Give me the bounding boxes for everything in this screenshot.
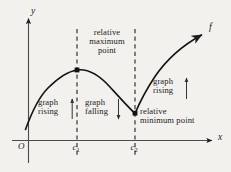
- graph-rising-right-line-2: rising: [153, 86, 173, 95]
- function-label-f: f: [209, 22, 212, 33]
- graph-rising-right-annotation: graph rising: [153, 77, 173, 95]
- calculus-graph-figure: y x O c1 c2 f relative maximum point gra…: [0, 0, 231, 172]
- x-tick-c2-subscript: 2: [135, 146, 138, 153]
- origin-label: O: [18, 142, 25, 152]
- graph-falling-line-2: falling: [85, 107, 108, 116]
- relative-minimum-annotation: relative minimum point: [140, 107, 195, 125]
- x-axis-label: x: [218, 132, 222, 142]
- graph-rising-left-annotation: graph rising: [38, 98, 58, 116]
- relative-minimum-line-2: minimum point: [140, 116, 195, 125]
- relative-maximum-annotation: relative maximum point: [81, 28, 133, 55]
- x-tick-c1-subscript: 1: [77, 146, 80, 153]
- x-tick-label-c2: c2: [131, 143, 138, 153]
- graph-rising-left-line-2: rising: [38, 107, 58, 116]
- y-axis-label: y: [31, 6, 35, 16]
- x-tick-label-c1: c1: [73, 143, 80, 153]
- relative-maximum-point-marker: [75, 68, 80, 73]
- relative-maximum-line-3: point: [81, 46, 133, 55]
- relative-minimum-point-marker: [133, 111, 138, 116]
- graph-canvas: [0, 0, 231, 172]
- graph-falling-annotation: graph falling: [85, 98, 108, 116]
